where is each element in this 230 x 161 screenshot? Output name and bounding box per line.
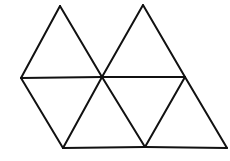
- edge-GH: [145, 147, 227, 148]
- edge-BE: [143, 5, 185, 77]
- edge-FG: [63, 147, 145, 148]
- edge-CA: [21, 6, 60, 78]
- edge-GE: [145, 77, 185, 147]
- triangle-figure: [0, 0, 230, 161]
- edge-FD: [63, 77, 102, 148]
- triangle-figure-svg: [0, 0, 230, 161]
- edge-DG: [102, 77, 145, 147]
- edge-AD: [60, 6, 102, 77]
- edge-CD: [21, 77, 102, 78]
- edge-EH: [185, 77, 227, 148]
- edge-DB: [102, 5, 143, 77]
- edge-CF: [21, 78, 63, 148]
